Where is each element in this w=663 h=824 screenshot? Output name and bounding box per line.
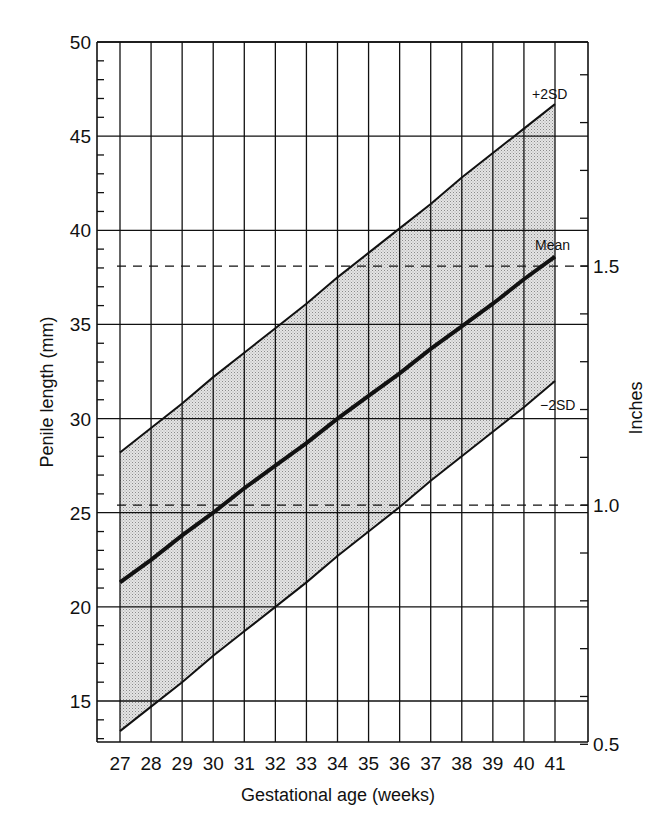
minus-2sd-label: −2SD: [540, 397, 575, 413]
y-axis-title: Penile length (mm): [37, 316, 57, 467]
x-tick-label-28: 28: [141, 753, 162, 774]
y2-tick-label-1.0: 1.0: [593, 495, 619, 516]
penile-length-chart: 1520253035404550272829303132333435363738…: [0, 0, 663, 824]
plus-2sd-label: +2SD: [532, 86, 567, 102]
y-tick-label-25: 25: [70, 503, 91, 524]
y2-tick-label-1.5: 1.5: [593, 256, 619, 277]
x-tick-label-38: 38: [451, 753, 472, 774]
x-tick-label-33: 33: [296, 753, 317, 774]
y-tick-label-50: 50: [70, 32, 91, 53]
x-tick-label-40: 40: [513, 753, 534, 774]
x-tick-label-27: 27: [109, 753, 130, 774]
y2-axis-title: Inches: [626, 381, 646, 434]
y-tick-label-20: 20: [70, 597, 91, 618]
y-tick-label-40: 40: [70, 220, 91, 241]
y-tick-label-35: 35: [70, 314, 91, 335]
x-tick-label-37: 37: [420, 753, 441, 774]
x-tick-label-41: 41: [544, 753, 565, 774]
x-tick-label-39: 39: [482, 753, 503, 774]
y-tick-label-30: 30: [70, 409, 91, 430]
x-axis-title: Gestational age (weeks): [241, 785, 435, 805]
x-tick-label-29: 29: [172, 753, 193, 774]
y-tick-label-15: 15: [70, 691, 91, 712]
x-tick-label-32: 32: [265, 753, 286, 774]
x-tick-label-35: 35: [358, 753, 379, 774]
x-tick-label-30: 30: [203, 753, 224, 774]
mean-label: Mean: [535, 237, 570, 253]
x-tick-label-34: 34: [327, 753, 349, 774]
x-tick-label-31: 31: [234, 753, 255, 774]
y-tick-label-45: 45: [70, 126, 91, 147]
y2-tick-label-0.5: 0.5: [593, 734, 619, 755]
x-tick-label-36: 36: [389, 753, 410, 774]
